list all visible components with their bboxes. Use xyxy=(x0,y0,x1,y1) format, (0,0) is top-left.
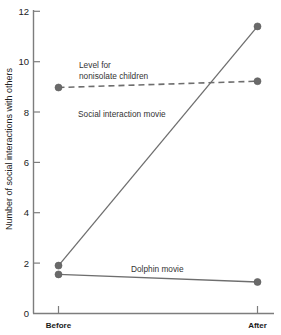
chart-container: 12 10 8 6 4 2 0 Before After Number of s… xyxy=(0,0,281,335)
y-tick-label-10: 10 xyxy=(18,56,29,67)
annotation-nonisolate-line2: nonisolate children xyxy=(79,71,149,81)
data-point-nonisolate-after xyxy=(254,78,261,85)
y-tick-label-2: 2 xyxy=(24,258,29,269)
series-line-nonisolate-level xyxy=(59,81,258,87)
x-tick-label-before: Before xyxy=(46,321,72,330)
y-tick-label-8: 8 xyxy=(24,107,29,118)
x-tick-label-after: After xyxy=(248,321,267,330)
y-axis-title: Number of social interactions with other… xyxy=(4,67,14,230)
data-point-dolphin-after xyxy=(254,279,261,286)
annotation-social-interaction-movie: Social interaction movie xyxy=(78,109,166,119)
y-tick-label-4: 4 xyxy=(24,207,29,218)
line-chart: 12 10 8 6 4 2 0 Before After Number of s… xyxy=(0,0,281,335)
data-point-nonisolate-before xyxy=(55,84,62,91)
annotation-dolphin-movie: Dolphin movie xyxy=(131,264,184,274)
data-point-social-interaction-after xyxy=(254,23,261,30)
y-tick-label-6: 6 xyxy=(24,157,29,168)
series-line-dolphin-movie xyxy=(59,274,258,282)
y-tick-label-12: 12 xyxy=(18,6,29,17)
data-point-dolphin-before xyxy=(55,271,62,278)
y-tick-label-0: 0 xyxy=(24,308,29,319)
data-point-social-interaction-before xyxy=(55,262,62,269)
annotation-nonisolate-line1: Level for xyxy=(79,60,111,70)
